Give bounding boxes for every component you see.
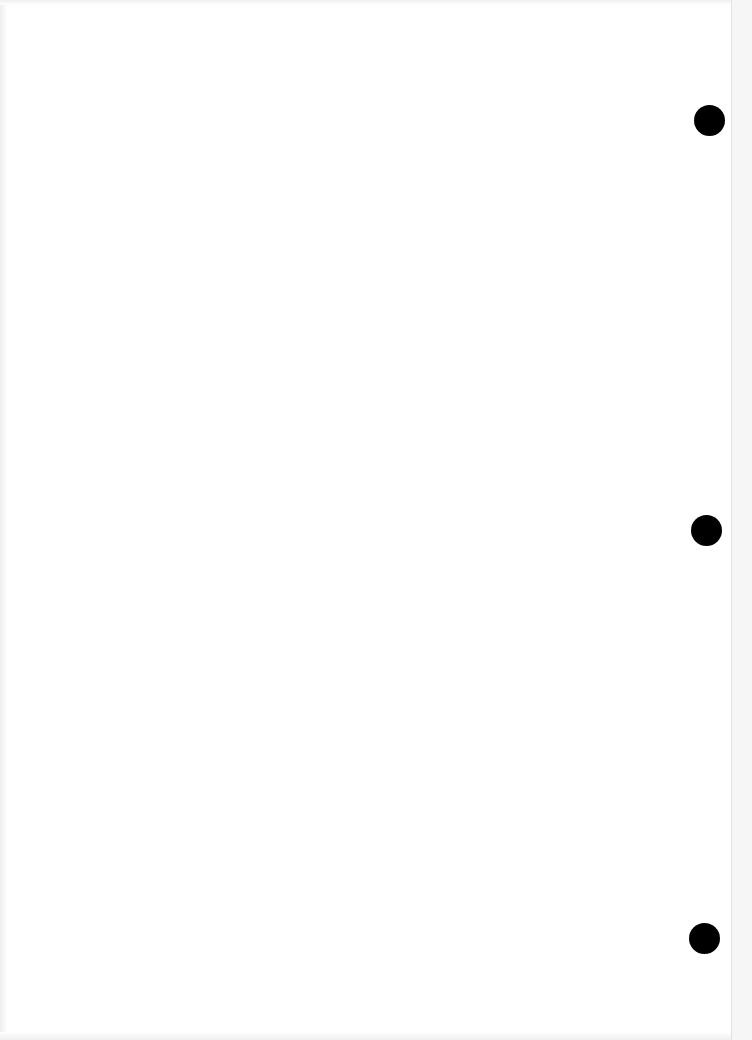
punch-hole-top (694, 105, 725, 136)
blank-page (0, 0, 731, 1040)
scan-edge-left (0, 0, 8, 1040)
scan-edge-bottom (0, 1032, 731, 1040)
scan-margin (732, 0, 752, 1040)
punch-hole-middle (691, 515, 722, 546)
scan-edge-top (0, 0, 731, 5)
punch-hole-bottom (689, 923, 720, 954)
